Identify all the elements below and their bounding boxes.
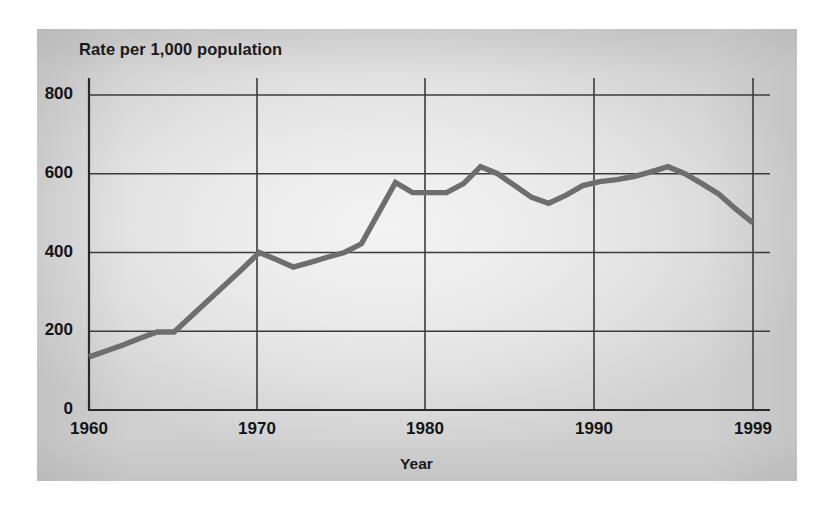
ytick-label-200: 200 xyxy=(13,320,73,340)
screenshot-root: Rate per 1,000 population 800 600 400 20… xyxy=(0,0,833,507)
vertical-gridlines xyxy=(257,78,753,410)
axes xyxy=(89,78,770,411)
ytick-label-600: 600 xyxy=(13,163,73,183)
x-axis-title: Year xyxy=(0,455,833,473)
ytick-label-800: 800 xyxy=(13,84,73,104)
xtick-label-1970: 1970 xyxy=(222,419,292,439)
xtick-label-1999: 1999 xyxy=(718,419,788,439)
ytick-label-400: 400 xyxy=(13,242,73,262)
xtick-label-1980: 1980 xyxy=(390,419,460,439)
xtick-label-1990: 1990 xyxy=(559,419,629,439)
horizontal-gridlines xyxy=(89,95,770,331)
xtick-label-1960: 1960 xyxy=(54,419,124,439)
data-series-line xyxy=(89,167,753,357)
ytick-label-0: 0 xyxy=(13,399,73,419)
